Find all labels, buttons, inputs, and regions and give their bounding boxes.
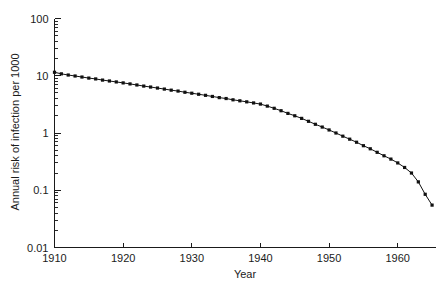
series-marker [87,76,90,79]
series-marker [122,81,125,84]
series-marker [80,75,83,78]
series-marker [183,91,186,94]
series-marker [259,102,262,105]
series-marker [252,101,255,104]
series-marker [266,105,269,108]
y-tick-label: 0.1 [33,184,48,196]
x-tick-label: 1930 [180,252,204,264]
series-marker [307,120,310,123]
y-axis-title: Annual risk of infection per 1000 [9,53,21,210]
series-marker [279,109,282,112]
series-marker [245,100,248,103]
series-marker [362,144,365,147]
x-tick-label: 1960 [386,252,410,264]
series-marker [211,95,214,98]
series-marker [142,84,145,87]
series-marker [348,138,351,141]
series-marker [170,89,173,92]
series-marker [204,94,207,97]
series-marker [389,158,392,161]
series-marker [156,86,159,89]
series-marker [108,79,111,82]
y-tick-label: 100 [30,13,48,25]
series-marker [231,98,234,101]
tick-labels-group: 0.010.1110100191019201930194019501960 [27,13,410,264]
series-marker [60,72,63,75]
series-marker [135,83,138,86]
series-marker [115,80,118,83]
series-marker [53,71,56,74]
series-marker [424,193,427,196]
series-marker [403,166,406,169]
series-marker [430,204,433,207]
series-marker [218,96,221,99]
series-marker [73,74,76,77]
chart-figure: 0.010.1110100191019201930194019501960 Ye… [0,0,447,290]
series-marker [314,123,317,126]
series-marker [190,92,193,95]
series-marker [101,78,104,81]
series-marker [382,154,385,157]
y-tick-label: 10 [36,70,48,82]
ticks-group [55,19,398,248]
series-marker [238,99,241,102]
x-tick-label: 1950 [317,252,341,264]
series-marker [417,180,420,183]
data-series-group [53,71,434,207]
series-marker [376,151,379,154]
x-tick-label: 1940 [248,252,272,264]
series-marker [197,93,200,96]
series-marker [396,161,399,164]
x-tick-label: 1910 [42,252,66,264]
series-marker [321,125,324,128]
log-line-chart: 0.010.1110100191019201930194019501960 Ye… [0,0,447,290]
series-marker [163,87,166,90]
axes-group [55,19,436,248]
x-tick-label: 1920 [111,252,135,264]
series-marker [410,171,413,174]
series-marker [128,82,131,85]
series-line [55,72,433,205]
series-marker [341,135,344,138]
series-marker [369,147,372,150]
series-marker [286,112,289,115]
x-axis-title: Year [234,268,257,280]
series-marker [273,107,276,110]
series-marker [355,141,358,144]
series-marker [327,128,330,131]
series-marker [334,131,337,134]
series-marker [149,85,152,88]
series-marker [300,117,303,120]
series-marker [176,89,179,92]
series-marker [225,97,228,100]
series-marker [67,73,70,76]
series-marker [293,114,296,117]
series-marker [94,77,97,80]
y-tick-label: 1 [42,127,48,139]
